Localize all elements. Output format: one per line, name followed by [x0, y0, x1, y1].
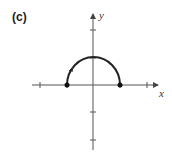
graph-canvas: x y	[0, 0, 172, 158]
right-endpoint	[118, 83, 123, 88]
x-axis	[32, 82, 158, 88]
y-axis	[90, 14, 96, 150]
y-axis-label: y	[98, 9, 104, 21]
x-axis-label: x	[158, 87, 164, 99]
left-endpoint	[65, 83, 70, 88]
